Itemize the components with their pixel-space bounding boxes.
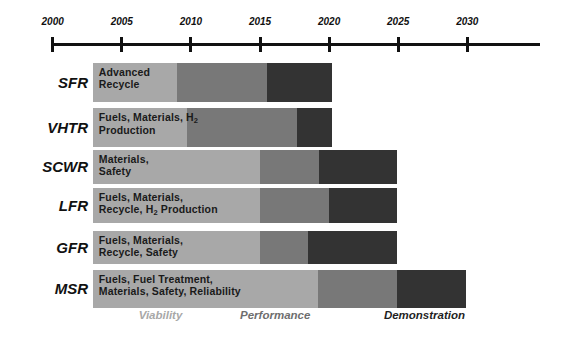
bar-scwr: Materials,Safety bbox=[93, 150, 397, 184]
bar-segment-performance-lfr bbox=[260, 188, 329, 223]
bar-segment-demonstration-scwr bbox=[319, 150, 396, 184]
axis-tick-2005 bbox=[120, 37, 123, 52]
bar-segment-demonstration-sfr bbox=[267, 63, 332, 102]
bar-lfr: Fuels, Materials,Recycle, H2 Production bbox=[93, 188, 397, 223]
legend-label-demonstration: Demonstration bbox=[384, 309, 465, 321]
reactor-row-scwr: SCWRMaterials,Safety bbox=[0, 150, 564, 184]
axis-tick-2000 bbox=[51, 37, 54, 52]
bar-segment-performance-gfr bbox=[260, 231, 308, 264]
axis-tick-label-2010: 2010 bbox=[180, 16, 202, 27]
bar-vhtr: Fuels, Materials, H2Production bbox=[93, 108, 332, 147]
bar-label-gfr: Fuels, Materials,Recycle, Safety bbox=[99, 235, 183, 258]
legend-label-viability: Viability bbox=[139, 309, 183, 321]
axis-tick-label-2015: 2015 bbox=[249, 16, 271, 27]
row-label-vhtr: VHTR bbox=[0, 119, 88, 136]
axis-tick-label-2020: 2020 bbox=[318, 16, 340, 27]
row-label-gfr: GFR bbox=[0, 239, 88, 256]
bar-segment-demonstration-lfr bbox=[329, 188, 397, 223]
reactor-row-gfr: GFRFuels, Materials,Recycle, Safety bbox=[0, 231, 564, 264]
axis-tick-label-2000: 2000 bbox=[42, 16, 64, 27]
legend-label-performance: Performance bbox=[240, 309, 310, 321]
axis-tick-2020 bbox=[328, 37, 331, 52]
bar-segment-performance-msr bbox=[318, 270, 397, 308]
bar-segment-demonstration-msr bbox=[397, 270, 466, 308]
bar-msr: Fuels, Fuel Treatment,Materials, Safety,… bbox=[93, 270, 466, 308]
row-label-sfr: SFR bbox=[0, 74, 88, 91]
bar-segment-performance-scwr bbox=[260, 150, 319, 184]
timeline-axis: 2000200520102015202020252030 bbox=[0, 0, 564, 56]
reactor-row-msr: MSRFuels, Fuel Treatment,Materials, Safe… bbox=[0, 270, 564, 308]
row-label-lfr: LFR bbox=[0, 197, 88, 214]
bar-segment-demonstration-gfr bbox=[308, 231, 396, 264]
row-label-scwr: SCWR bbox=[0, 158, 88, 175]
bar-segment-performance-sfr bbox=[177, 63, 267, 102]
reactor-row-sfr: SFRAdvancedRecycle bbox=[0, 63, 564, 102]
axis-tick-2025 bbox=[397, 37, 400, 52]
axis-tick-label-2025: 2025 bbox=[387, 16, 409, 27]
bar-segment-performance-vhtr bbox=[187, 108, 298, 147]
bar-label-vhtr: Fuels, Materials, H2Production bbox=[99, 112, 198, 136]
axis-tick-2015 bbox=[259, 37, 262, 52]
bar-label-msr: Fuels, Fuel Treatment,Materials, Safety,… bbox=[99, 274, 241, 297]
bar-gfr: Fuels, Materials,Recycle, Safety bbox=[93, 231, 397, 264]
row-label-msr: MSR bbox=[0, 280, 88, 297]
phase-legend: ViabilityPerformanceDemonstration bbox=[0, 309, 564, 331]
axis-tick-label-2005: 2005 bbox=[111, 16, 133, 27]
bar-segment-demonstration-vhtr bbox=[297, 108, 332, 147]
bar-label-sfr: AdvancedRecycle bbox=[99, 67, 150, 90]
axis-tick-2030 bbox=[466, 37, 469, 52]
bar-label-lfr: Fuels, Materials,Recycle, H2 Production bbox=[99, 192, 218, 216]
bar-label-scwr: Materials,Safety bbox=[99, 154, 149, 177]
reactor-row-lfr: LFRFuels, Materials,Recycle, H2 Producti… bbox=[0, 188, 564, 223]
bar-sfr: AdvancedRecycle bbox=[93, 63, 332, 102]
axis-tick-2010 bbox=[189, 37, 192, 52]
reactor-row-vhtr: VHTRFuels, Materials, H2Production bbox=[0, 108, 564, 147]
gantt-roadmap-chart: 2000200520102015202020252030 SFRAdvanced… bbox=[0, 0, 564, 343]
axis-tick-label-2030: 2030 bbox=[456, 16, 478, 27]
